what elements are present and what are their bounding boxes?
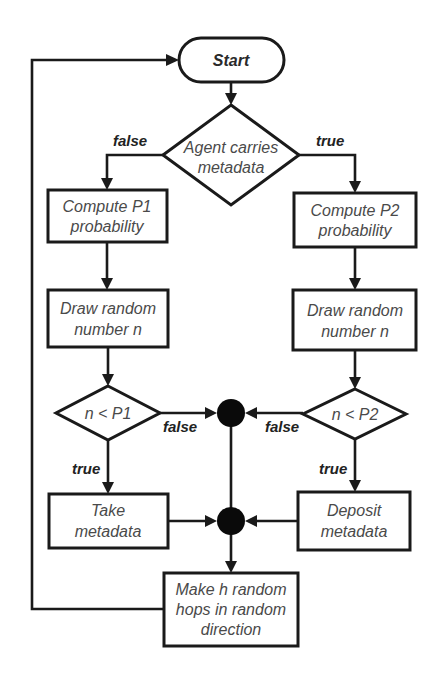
process-label-line2: metadata xyxy=(75,523,142,540)
draw-random-right-process: Draw random number n xyxy=(293,290,416,350)
make-random-hops-process: Make h random hops in random direction xyxy=(164,573,298,646)
junction-bottom-dot xyxy=(217,507,245,535)
arrowhead-icon xyxy=(225,561,237,573)
process-label-line1: Compute P2 xyxy=(311,202,400,219)
process-label-line2: number n xyxy=(74,321,142,338)
agent-carries-metadata-decision: Agent carries metadata xyxy=(163,105,299,205)
junction-top-dot xyxy=(217,399,245,427)
arrowhead-icon xyxy=(349,377,361,389)
flowchart-canvas: Start Agent carries metadata Compute P1 … xyxy=(0,0,440,681)
process-label-line1: Make h random xyxy=(175,581,286,598)
process-label-line1: Take xyxy=(91,502,125,519)
decision-label-line1: Agent carries xyxy=(183,139,278,156)
draw-random-left-process: Draw random number n xyxy=(48,290,168,347)
arrowhead-icon xyxy=(101,278,113,290)
edge-label-agent-false: false xyxy=(113,132,147,149)
arrowhead-icon xyxy=(102,374,114,386)
decision-label-line2: metadata xyxy=(198,159,265,176)
arrowhead-icon xyxy=(102,482,114,494)
n-less-p1-decision: n < P1 xyxy=(56,386,160,440)
decision-label: n < P1 xyxy=(85,405,132,422)
process-label-line2: number n xyxy=(321,323,389,340)
take-metadata-process: Take metadata xyxy=(49,494,168,548)
process-label-line1: Compute P1 xyxy=(63,198,152,215)
n-less-p2-decision: n < P2 xyxy=(303,389,406,439)
arrowhead-icon xyxy=(205,407,217,419)
process-label-line2: probability xyxy=(318,222,393,239)
decision-label: n < P2 xyxy=(332,406,379,423)
arrowhead-icon xyxy=(245,515,257,527)
deposit-metadata-process: Deposit metadata xyxy=(298,492,410,550)
arrowhead-icon xyxy=(101,178,113,190)
start-terminator: Start xyxy=(179,38,284,82)
process-label-line3: direction xyxy=(201,621,262,638)
start-label: Start xyxy=(213,52,250,69)
process-label-line1: Draw random xyxy=(60,300,156,317)
process-label-line2: probability xyxy=(70,218,145,235)
arrowhead-icon xyxy=(349,480,361,492)
edge-label-agent-true: true xyxy=(316,132,344,149)
arrowhead-icon xyxy=(205,515,217,527)
process-label-line1: Deposit xyxy=(327,502,382,519)
arrowhead-icon xyxy=(349,181,361,193)
process-label-line2: metadata xyxy=(321,523,388,540)
process-label-line1: Draw random xyxy=(307,302,403,319)
arrowhead-icon xyxy=(166,54,179,66)
edge-label-p2-false: false xyxy=(265,418,299,435)
compute-p1-process: Compute P1 probability xyxy=(48,190,167,242)
compute-p2-process: Compute P2 probability xyxy=(294,193,416,247)
edge-label-p2-true: true xyxy=(319,460,347,477)
process-label-line2: hops in random xyxy=(176,601,286,618)
arrowhead-icon xyxy=(245,407,257,419)
edge-agent-to-compute-p2 xyxy=(299,155,355,184)
edge-label-p1-true: true xyxy=(72,460,100,477)
edge-agent-to-compute-p1 xyxy=(107,155,163,181)
edge-label-p1-false: false xyxy=(163,418,197,435)
arrowhead-icon xyxy=(349,278,361,290)
